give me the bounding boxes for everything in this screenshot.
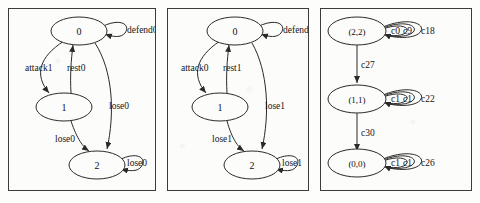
panel-3-canvas: (2,2) (1,1) (0,0) c27 c30 c0 c9 c18 c1 c… (321, 9, 471, 190)
state-label-0-0: (0,0) (348, 159, 365, 169)
state-label-2: 2 (250, 160, 255, 171)
state-label-1-1: (1,1) (348, 95, 365, 105)
self-loop-label-c26: c26 (421, 158, 435, 168)
diagram-panel-1: 0 1 2 defend0 attack1 rest0 lose0 lose0 … (8, 8, 156, 191)
state-label-1: 1 (218, 102, 223, 113)
edge-label-lose0-c: lose0 (127, 158, 147, 168)
edge-label-c30: c30 (361, 128, 375, 138)
edge-0-2 (252, 43, 267, 149)
edge-label-attack0: attack0 (181, 63, 209, 73)
edge-0-2 (95, 43, 111, 149)
self-loop-label-c1-d: c1 (403, 158, 412, 168)
edge-label-rest0: rest0 (67, 63, 86, 73)
state-label-0: 0 (77, 26, 82, 37)
edge-label-defend0: defend0 (127, 25, 155, 35)
state-label-2: 2 (95, 160, 100, 171)
self-loop-label-c0: c0 (391, 26, 400, 36)
diagram-panel-3: (2,2) (1,1) (0,0) c27 c30 c0 c9 c18 c1 c… (320, 8, 472, 191)
panel-2-canvas: 0 1 2 defend1 attack0 rest1 lose1 lose1 … (168, 9, 308, 190)
edge-label-rest1: rest1 (223, 63, 242, 73)
edge-label-lose1-b: lose1 (212, 134, 232, 144)
self-loop-label-c1-b: c1 (403, 94, 412, 104)
self-loop-label-c1-a: c1 (391, 94, 400, 104)
diagram-panel-2: 0 1 2 defend1 attack0 rest1 lose1 lose1 … (167, 8, 309, 191)
state-label-2-2: (2,2) (348, 27, 365, 37)
self-loop-label-c9: c9 (403, 26, 412, 36)
edge-label-lose1-a: lose1 (265, 101, 285, 111)
self-loop-label-c18: c18 (421, 26, 435, 36)
self-loop-label-c22: c22 (421, 94, 435, 104)
state-label-1: 1 (62, 102, 67, 113)
edge-label-attack1: attack1 (25, 63, 53, 73)
edge-label-lose0-b: lose0 (55, 134, 75, 144)
self-loop-label-c1-c: c1 (391, 158, 400, 168)
edge-label-lose1-c: lose1 (282, 158, 302, 168)
edge-label-lose0-a: lose0 (109, 101, 129, 111)
edge-label-c27: c27 (361, 60, 375, 70)
figure-sheet: 0 1 2 defend0 attack1 rest0 lose0 lose0 … (0, 0, 480, 203)
state-label-0: 0 (233, 26, 238, 37)
panel-1-canvas: 0 1 2 defend0 attack1 rest0 lose0 lose0 … (9, 9, 155, 190)
edge-label-defend1: defend1 (283, 25, 308, 35)
